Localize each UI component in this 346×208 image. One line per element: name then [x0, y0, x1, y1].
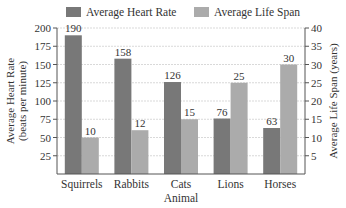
bar — [131, 130, 148, 174]
y-axis-title: Average Heart Rate(beats per minute) — [4, 58, 29, 145]
y-tick-label: 75 — [40, 113, 52, 125]
bar-group-lions: 7625 — [214, 70, 248, 174]
bar — [164, 82, 181, 174]
y-tick-label: 150 — [35, 59, 52, 71]
data-label: 190 — [65, 22, 82, 34]
y2-axis-title: Average Life Span (years) — [327, 43, 340, 159]
y-tick-label: 25 — [40, 150, 52, 162]
bar-group-squirrels: 19010 — [65, 22, 99, 174]
dual-axis-bar-chart: Average Heart RateAverage Life Span 1901… — [0, 0, 346, 208]
data-label: 126 — [164, 69, 181, 81]
legend-swatch — [66, 7, 81, 17]
data-label: 15 — [184, 106, 196, 118]
bars: 19010158121261576256330 — [65, 22, 297, 174]
legend-swatch — [194, 7, 209, 17]
x-axis: SquirrelsRabbitsCatsLionsHorsesAnimal — [61, 178, 297, 204]
left-y-axis: 255075100125150175200Average Heart Rate(… — [4, 22, 57, 162]
bar — [114, 59, 131, 174]
legend-item: Average Life Span — [194, 6, 300, 19]
data-label: 158 — [115, 46, 132, 58]
x-tick-label: Squirrels — [61, 178, 103, 191]
y2-tick-label: 25 — [311, 77, 323, 89]
x-tick-label: Horses — [264, 178, 296, 190]
y-tick-label: 50 — [40, 132, 52, 144]
right-y-axis: 510152025303540Average Life Span (years) — [305, 22, 340, 162]
x-axis-title: Animal — [164, 192, 199, 204]
bar — [214, 119, 231, 174]
y2-tick-label: 5 — [311, 150, 317, 162]
bar — [65, 35, 82, 174]
x-tick-label: Lions — [217, 178, 244, 190]
bar-group-cats: 12615 — [164, 69, 198, 174]
data-label: 12 — [134, 117, 145, 129]
bar — [231, 83, 248, 174]
bar — [181, 119, 198, 174]
y-tick-label: 125 — [35, 77, 52, 89]
bar-group-rabbits: 15812 — [114, 46, 148, 174]
data-label: 30 — [283, 52, 295, 64]
legend-label: Average Life Span — [214, 6, 300, 19]
y2-tick-label: 35 — [311, 40, 323, 52]
bar — [263, 128, 280, 174]
y-tick-label: 175 — [35, 40, 52, 52]
y-tick-label: 100 — [35, 95, 52, 107]
x-tick-label: Cats — [171, 178, 192, 190]
legend-item: Average Heart Rate — [66, 6, 176, 19]
data-label: 63 — [266, 115, 278, 127]
data-label: 76 — [217, 106, 229, 118]
y2-tick-label: 20 — [311, 95, 323, 107]
legend-label: Average Heart Rate — [86, 6, 176, 19]
bar-group-horses: 6330 — [263, 52, 297, 175]
bar — [280, 65, 297, 175]
legend: Average Heart RateAverage Life Span — [66, 6, 300, 19]
bar — [82, 138, 99, 175]
data-label: 25 — [234, 70, 246, 82]
data-label: 10 — [85, 125, 97, 137]
y2-tick-label: 30 — [311, 59, 323, 71]
y-tick-label: 200 — [35, 22, 52, 34]
x-tick-label: Rabbits — [114, 178, 150, 190]
y2-tick-label: 10 — [311, 132, 323, 144]
y2-tick-label: 40 — [311, 22, 323, 34]
y2-tick-label: 15 — [311, 113, 323, 125]
